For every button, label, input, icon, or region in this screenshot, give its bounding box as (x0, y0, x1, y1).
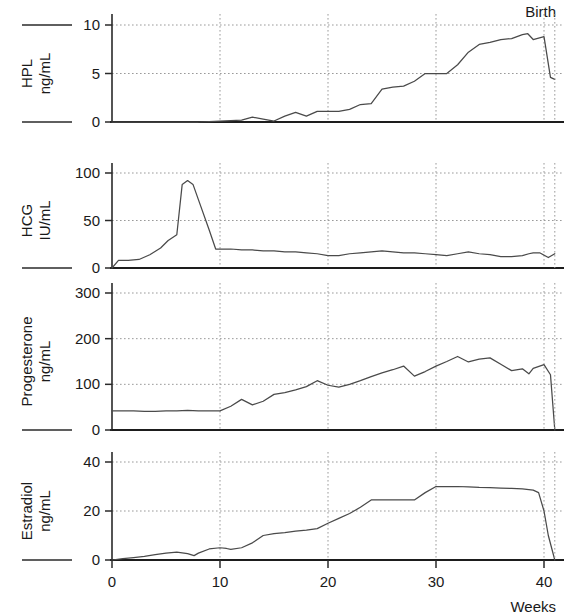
y-axis-title-estradiol: Estradiolng/mL (18, 482, 53, 540)
y-axis-title-line1-hcg: HCG (18, 204, 35, 237)
y-axis-title-line1-hpl: HPL (18, 59, 35, 88)
xtick-label-30: 30 (428, 573, 445, 590)
xtick-label-40: 40 (536, 573, 553, 590)
ytick-label-progesterone-100: 100 (75, 375, 100, 392)
y-axis-title-line2-hcg: IU/mL (36, 200, 53, 240)
panel-hcg: 050100 (22, 163, 564, 276)
y-axis-title-line2-progesterone: ng/mL (36, 341, 53, 383)
label-group: HPLng/mLHCGIU/mLProgesteroneng/mLEstradi… (18, 3, 556, 615)
xtick-label-20: 20 (320, 573, 337, 590)
y-axis-title-hcg: HCGIU/mL (18, 200, 53, 240)
ytick-label-progesterone-200: 200 (75, 330, 100, 347)
hormone-levels-figure: 0510050100010020030002040 HPLng/mLHCGIU/… (0, 0, 564, 616)
y-axis-title-line1-progesterone: Progesterone (18, 316, 35, 406)
ytick-label-estradiol-0: 0 (92, 551, 100, 568)
y-axis-title-line2-hpl: ng/mL (36, 53, 53, 95)
series-line-progesterone (112, 356, 555, 430)
x-axis-unit-label: Weeks (510, 598, 556, 615)
y-axis-title-hpl: HPLng/mL (18, 53, 53, 95)
panel-estradiol: 02040 (22, 452, 564, 568)
ytick-label-progesterone-0: 0 (92, 421, 100, 438)
panel-progesterone: 0100200300 (22, 283, 564, 438)
ytick-label-hcg-0: 0 (92, 259, 100, 276)
y-axis-title-line2-estradiol: ng/mL (36, 490, 53, 532)
ytick-label-estradiol-20: 20 (83, 502, 100, 519)
series-line-hcg (112, 181, 555, 268)
ytick-label-hpl-0: 0 (92, 113, 100, 130)
ytick-label-hpl-5: 5 (92, 65, 100, 82)
series-line-estradiol (112, 487, 555, 561)
xtick-label-10: 10 (212, 573, 229, 590)
x-axis: 010203040Weeks (108, 560, 556, 615)
ytick-label-estradiol-40: 40 (83, 453, 100, 470)
series-line-hpl (112, 34, 555, 122)
y-axis-title-line1-estradiol: Estradiol (18, 482, 35, 540)
y-axis-title-progesterone: Progesteroneng/mL (18, 316, 53, 406)
birth-annotation-label: Birth (525, 3, 556, 20)
ytick-label-hcg-100: 100 (75, 164, 100, 181)
panel-hpl: 0510 (22, 14, 564, 130)
ytick-label-progesterone-300: 300 (75, 284, 100, 301)
panel-group: 0510050100010020030002040 (22, 14, 564, 568)
ytick-label-hcg-50: 50 (83, 212, 100, 229)
xtick-label-0: 0 (108, 573, 116, 590)
ytick-label-hpl-10: 10 (83, 16, 100, 33)
